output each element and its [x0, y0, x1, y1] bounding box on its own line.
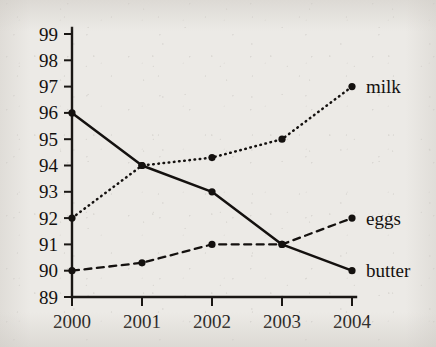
y-tick-label: 89 [39, 287, 58, 308]
y-tick-label: 94 [39, 155, 59, 176]
series-point-eggs [278, 241, 285, 248]
y-tick-label: 93 [39, 181, 58, 202]
series-point-eggs [68, 267, 75, 274]
x-tick-label: 2004 [333, 311, 372, 332]
series-point-butter [208, 188, 215, 195]
y-tick-label: 97 [39, 76, 58, 97]
series-label-eggs: eggs [366, 208, 401, 229]
y-tick-label: 99 [39, 24, 58, 45]
x-tick-label: 2003 [263, 311, 301, 332]
series-point-milk [348, 83, 355, 90]
series-label-milk: milk [366, 76, 401, 97]
chart-canvas: 8990919293949596979899 20002001200220032… [0, 0, 436, 347]
series-label-butter: butter [366, 260, 411, 281]
line-chart: 8990919293949596979899 20002001200220032… [0, 0, 436, 347]
series-inline-labels: milkbuttereggs [366, 76, 411, 281]
series-point-milk [278, 136, 285, 143]
series-point-butter [68, 109, 75, 116]
x-tick-label: 2000 [53, 311, 91, 332]
chart-axes [64, 28, 356, 306]
series-butter [68, 109, 355, 274]
series-eggs [68, 215, 355, 275]
x-axis-ticks [72, 297, 352, 306]
chart-series [68, 83, 355, 274]
y-tick-label: 95 [39, 129, 58, 150]
series-point-eggs [208, 241, 215, 248]
series-point-butter [138, 162, 145, 169]
y-tick-label: 96 [39, 102, 58, 123]
series-point-eggs [348, 215, 355, 222]
series-point-butter [348, 267, 355, 274]
x-tick-label: 2002 [193, 311, 231, 332]
x-tick-label: 2001 [123, 311, 161, 332]
series-line-milk [72, 87, 352, 219]
series-point-milk [68, 215, 75, 222]
y-tick-label: 92 [39, 208, 58, 229]
y-tick-label: 90 [39, 260, 58, 281]
series-point-milk [208, 154, 215, 161]
y-tick-label: 98 [39, 50, 58, 71]
series-milk [68, 83, 355, 222]
series-point-eggs [138, 259, 145, 266]
y-tick-label: 91 [39, 234, 58, 255]
x-axis-tick-labels: 20002001200220032004 [53, 311, 372, 332]
y-axis-tick-labels: 8990919293949596979899 [39, 24, 59, 308]
